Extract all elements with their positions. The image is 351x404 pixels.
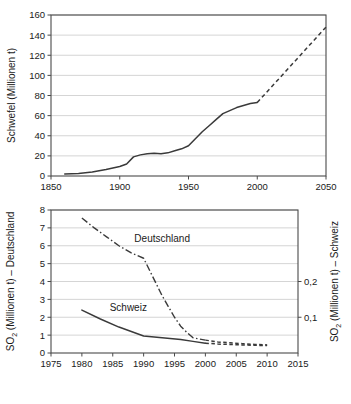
y-tick-label-left: 7: [40, 222, 45, 233]
y-tick-label: 60: [34, 110, 45, 121]
y-tick-label-left: 0: [40, 347, 45, 358]
y-axis-title-left: SO2 (Millionen t) – Deutschland: [5, 212, 18, 352]
y-tick-label: 100: [29, 70, 45, 81]
y-tick-label-left: 4: [40, 276, 45, 287]
x-tick-label: 2005: [226, 358, 247, 369]
y-axis-title: Schwefel (Millionen t): [6, 48, 17, 143]
y-axis-title-right: SO2 (Millionen t) – Schweiz: [329, 221, 342, 342]
x-tick-label: 1990: [133, 358, 154, 369]
y-tick-label-right: 0,1: [304, 312, 317, 323]
y-tick-label-left: 2: [40, 312, 45, 323]
x-tick-label: 1950: [178, 181, 199, 192]
figure-container: 0204060801001201401601850190019502000205…: [0, 0, 351, 404]
x-tick-label: 2000: [247, 181, 268, 192]
x-tick-label: 2000: [195, 358, 216, 369]
chart-so2: 0123456780,10,21975198019851990199520002…: [0, 196, 351, 404]
chart-schwefel: 0204060801001201401601850190019502000205…: [0, 0, 351, 196]
y-tick-label: 80: [34, 90, 45, 101]
x-tick-label: 2010: [257, 358, 278, 369]
y-tick-label-left: 8: [40, 204, 45, 215]
series-annotation-deutschland: Deutschland: [134, 233, 190, 244]
y-tick-label-left: 3: [40, 294, 45, 305]
y-tick-label: 40: [34, 130, 45, 141]
series-line-projection: [257, 27, 326, 102]
x-tick-label: 1980: [71, 358, 92, 369]
x-tick-label: 2015: [287, 358, 308, 369]
y-tick-label: 160: [29, 9, 45, 20]
x-tick-label: 2050: [315, 181, 336, 192]
series-annotation-schweiz: Schweiz: [110, 302, 147, 313]
y-tick-label-left: 5: [40, 258, 45, 269]
y-tick-label-right: 0,2: [304, 276, 317, 287]
x-tick-label: 1850: [40, 181, 61, 192]
y-tick-label-left: 1: [40, 330, 45, 341]
series-line-schweiz: [82, 310, 206, 343]
x-tick-label: 1995: [164, 358, 185, 369]
y-tick-label: 140: [29, 30, 45, 41]
x-tick-label: 1975: [40, 358, 61, 369]
y-tick-label-left: 6: [40, 240, 45, 251]
y-tick-label: 20: [34, 150, 45, 161]
y-tick-label: 120: [29, 50, 45, 61]
y-tick-label: 0: [40, 170, 45, 181]
x-tick-label: 1985: [102, 358, 123, 369]
series-line-historic: [65, 103, 258, 174]
x-tick-label: 1900: [109, 181, 130, 192]
